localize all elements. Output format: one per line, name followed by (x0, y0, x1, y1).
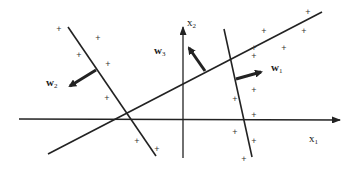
plus-point-marker: + (251, 111, 256, 120)
plus-point-marker: + (56, 25, 61, 34)
w3-label: w3 (154, 45, 165, 58)
boundary-line-3 (48, 12, 322, 154)
plus-point-marker: + (251, 137, 256, 146)
plus-point-marker: + (134, 137, 139, 146)
plus-point-marker: + (281, 44, 286, 53)
w2-label: w2 (46, 77, 57, 90)
plus-point-marker: + (251, 52, 256, 61)
plus-point-marker: + (232, 95, 237, 104)
plus-point-marker: + (241, 155, 246, 164)
w3-arrow (189, 48, 205, 71)
plus-point-marker: + (251, 86, 256, 95)
plus-point-marker: + (95, 34, 100, 43)
diagram-canvas: +++++++++++++++++++ x2 x1 w1 w2 w3 (0, 0, 353, 170)
plus-point-marker: + (76, 51, 81, 60)
x1-axis (19, 119, 340, 120)
boundary-line-1 (224, 29, 252, 157)
plus-point-marker: + (232, 128, 237, 137)
plus-point-marker: + (105, 60, 110, 69)
plus-point-marker: + (154, 145, 159, 154)
w1-label: w1 (271, 62, 282, 75)
x2-axis-label: x2 (187, 17, 196, 30)
plus-point-marker: + (305, 8, 310, 17)
plus-point-marker: + (261, 27, 266, 36)
x1-axis-label: x1 (309, 133, 318, 146)
w2-arrow (70, 70, 96, 86)
plus-point-marker: + (301, 27, 306, 36)
w1-arrow (236, 72, 261, 79)
plus-point-marker: + (104, 94, 109, 103)
